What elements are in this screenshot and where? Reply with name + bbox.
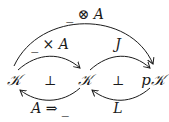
arrow-exponential <box>20 88 80 100</box>
label-L: L <box>113 101 122 115</box>
label-tensor: _ ⊗ A <box>66 7 104 21</box>
label-exponential: A ⇒ _ <box>31 101 69 115</box>
label-product: _ × A <box>31 37 69 51</box>
label-J: J <box>115 37 121 51</box>
arrow-J <box>90 56 150 70</box>
arrow-L <box>92 88 150 100</box>
arrow-product <box>18 56 80 70</box>
node-K-middle: 𝒦 <box>78 73 92 88</box>
node-K-left: 𝒦 <box>7 73 21 88</box>
adjunction-symbol-right: ⊥ <box>112 74 124 87</box>
node-pK: p𝒦 <box>141 73 165 88</box>
adjunction-symbol-left: ⊥ <box>44 74 56 87</box>
